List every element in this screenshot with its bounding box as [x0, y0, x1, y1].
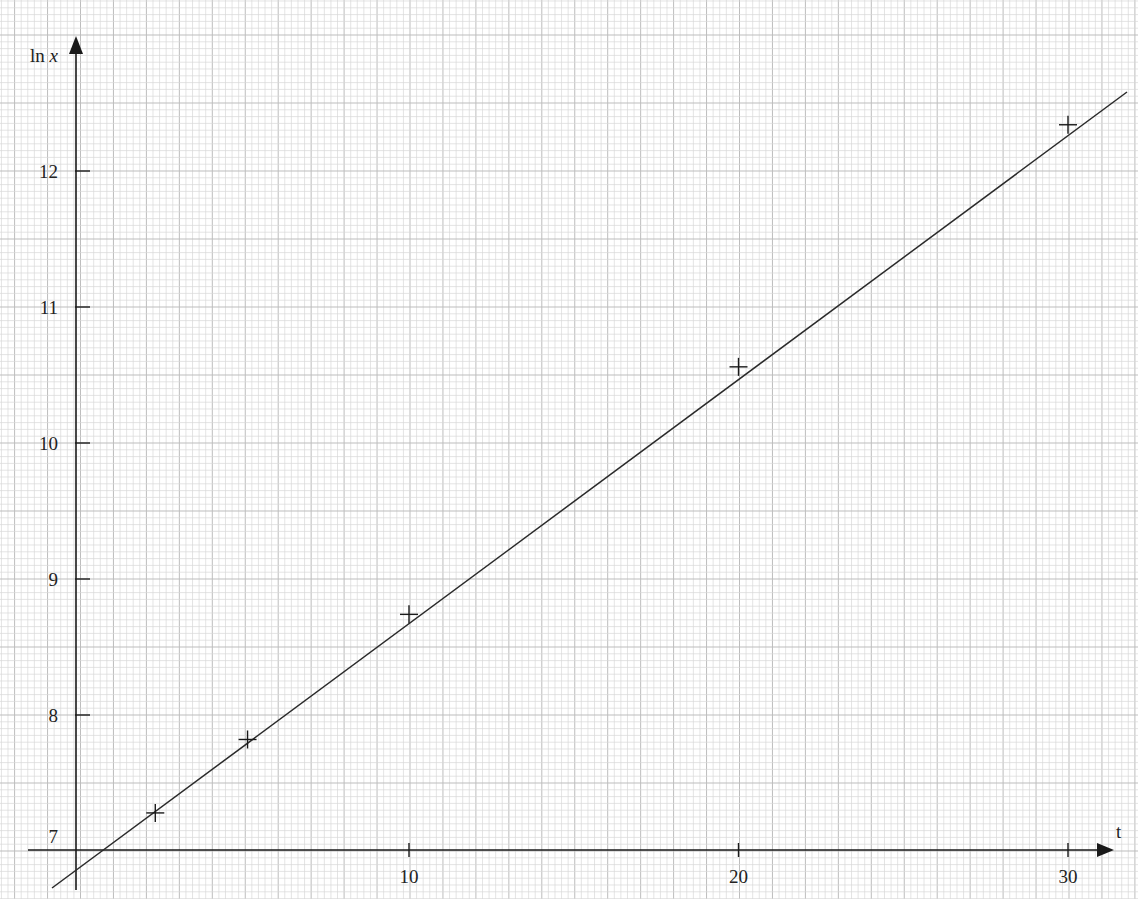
graph-paper-grid: [0, 0, 1138, 899]
y-axis-label-fn: ln: [30, 45, 50, 66]
y-tick-label: 9: [49, 569, 59, 590]
line-of-best-fit: [52, 92, 1127, 888]
data-point-plus-icon: [239, 730, 257, 748]
x-axis-label: t: [1116, 821, 1122, 842]
x-tick-label: 10: [400, 866, 419, 887]
x-tick-label: 30: [1059, 866, 1078, 887]
x-tick-label: 20: [729, 866, 748, 887]
data-point-plus-icon: [400, 605, 418, 623]
y-tick-label: 7: [49, 826, 59, 847]
y-tick-label: 12: [39, 161, 58, 182]
data-point-plus-icon: [730, 358, 748, 376]
y-axis-label-var: x: [49, 45, 59, 66]
chart: 102030 789101112 t ln x: [0, 0, 1138, 899]
x-axis-arrow-icon: [1097, 843, 1114, 857]
y-tick-label: 11: [40, 297, 58, 318]
y-axis-label: ln x: [30, 45, 59, 66]
y-tick-label: 8: [49, 705, 59, 726]
fit-line: [52, 92, 1127, 888]
y-tick-label: 10: [39, 433, 58, 454]
